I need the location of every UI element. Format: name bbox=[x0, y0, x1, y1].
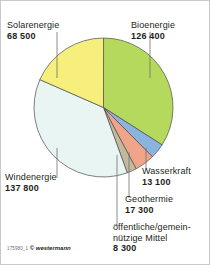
credit-code: 175980_1 bbox=[7, 246, 28, 251]
slice-label-geothermie: Geothermie 17 300 bbox=[125, 194, 173, 215]
slice-label-name: Geothermie bbox=[125, 194, 173, 205]
slice-label-name: öffentliche/gemein-nützige Mittel bbox=[113, 222, 208, 243]
slice-label-bioenergie: Bioenergie 126 400 bbox=[131, 20, 175, 41]
pie-chart-figure: Solarenergie 68 500 Bioenergie 126 400 W… bbox=[0, 0, 210, 265]
slice-label-value: 68 500 bbox=[7, 31, 59, 42]
slice-label-value: 126 400 bbox=[131, 31, 175, 42]
slice-label-value: 8 300 bbox=[113, 243, 208, 254]
slice-label-value: 17 300 bbox=[125, 205, 173, 216]
slice-label-value: 137 800 bbox=[5, 183, 57, 194]
slice-label-windenergie: Windenergie 137 800 bbox=[5, 172, 57, 193]
slice-label-solarenergie: Solarenergie 68 500 bbox=[7, 20, 59, 41]
slice-label-name: Bioenergie bbox=[131, 20, 175, 31]
slice-label-wasserkraft: Wasserkraft 13 100 bbox=[142, 166, 191, 187]
credit-line: 175980_1 © westermann bbox=[7, 245, 71, 251]
pie-slices bbox=[34, 38, 173, 177]
slice-label-name: Solarenergie bbox=[7, 20, 59, 31]
slice-label-name: Windenergie bbox=[5, 172, 57, 183]
slice-label-value: 13 100 bbox=[142, 177, 191, 188]
slice-label-name: Wasserkraft bbox=[142, 166, 191, 177]
publisher-wordmark: © westermann bbox=[30, 245, 71, 251]
slice-label-oeffentliche-mittel: öffentliche/gemein-nützige Mittel 8 300 bbox=[113, 222, 208, 254]
